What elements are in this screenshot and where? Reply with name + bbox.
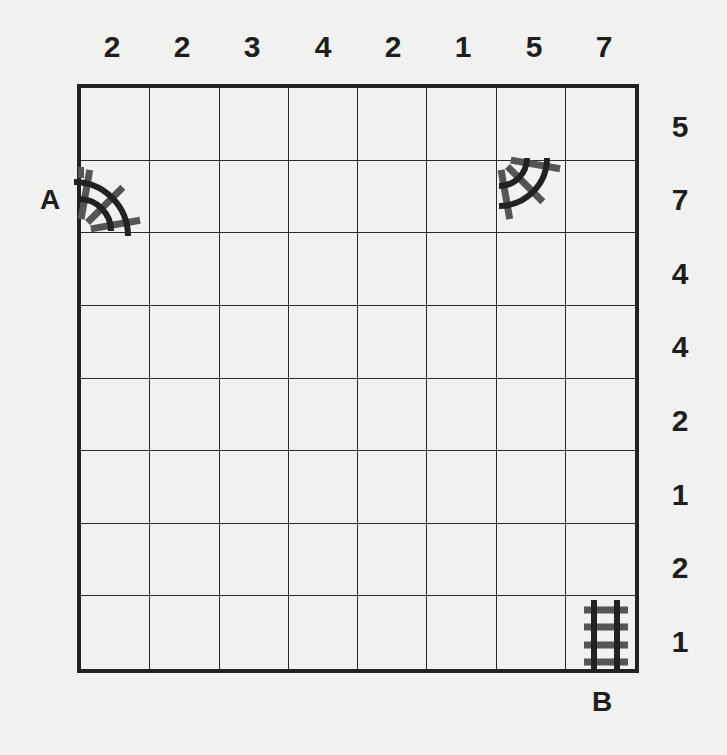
end-label-b: B — [592, 686, 612, 718]
grid-cell-r5c8[interactable] — [566, 379, 635, 452]
grid-cell-r3c1[interactable] — [81, 233, 150, 306]
column-clue-3: 3 — [217, 30, 287, 64]
row-clue-3: 4 — [660, 257, 700, 291]
grid-cell-r1c2[interactable] — [150, 88, 219, 161]
grid-cell-r5c6[interactable] — [427, 379, 496, 452]
row-clue-5: 2 — [660, 404, 700, 438]
grid-cell-r8c7[interactable] — [497, 596, 566, 669]
grid-cell-r1c4[interactable] — [289, 88, 358, 161]
grid-cell-r7c5[interactable] — [358, 524, 427, 597]
start-label-a: A — [40, 184, 60, 216]
grid-cell-r7c1[interactable] — [81, 524, 150, 597]
grid-cell-r8c5[interactable] — [358, 596, 427, 669]
grid-cell-r1c5[interactable] — [358, 88, 427, 161]
grid-cell-r5c5[interactable] — [358, 379, 427, 452]
column-clue-4: 4 — [288, 30, 358, 64]
grid-cell-r5c1[interactable] — [81, 379, 150, 452]
grid-cell-r1c7[interactable] — [497, 88, 566, 161]
grid-cell-r5c4[interactable] — [289, 379, 358, 452]
grid-cell-r8c4[interactable] — [289, 596, 358, 669]
grid-cell-r3c5[interactable] — [358, 233, 427, 306]
grid-cell-r4c7[interactable] — [497, 306, 566, 379]
grid-cell-r7c7[interactable] — [497, 524, 566, 597]
grid-cell-r6c1[interactable] — [81, 451, 150, 524]
grid-cell-r7c4[interactable] — [289, 524, 358, 597]
grid-cell-r6c4[interactable] — [289, 451, 358, 524]
column-clue-1: 2 — [77, 30, 147, 64]
row-clue-6: 1 — [660, 478, 700, 512]
grid-cell-r4c5[interactable] — [358, 306, 427, 379]
grid-cell-r1c8[interactable] — [566, 88, 635, 161]
column-clue-2: 2 — [147, 30, 217, 64]
grid-cell-r6c2[interactable] — [150, 451, 219, 524]
grid-cell-r5c3[interactable] — [220, 379, 289, 452]
grid-cell-r4c1[interactable] — [81, 306, 150, 379]
row-clue-4: 4 — [660, 330, 700, 364]
grid-cell-r5c2[interactable] — [150, 379, 219, 452]
grid-cell-r2c2[interactable] — [150, 161, 219, 234]
grid-cell-r6c3[interactable] — [220, 451, 289, 524]
column-clue-7: 5 — [499, 30, 569, 64]
grid-cell-r2c8[interactable] — [566, 161, 635, 234]
grid-cell-r2c6[interactable] — [427, 161, 496, 234]
grid-cell-r2c5[interactable] — [358, 161, 427, 234]
grid-cell-r2c3[interactable] — [220, 161, 289, 234]
grid-cell-r3c7[interactable] — [497, 233, 566, 306]
grid-cell-r3c6[interactable] — [427, 233, 496, 306]
grid-cell-r6c7[interactable] — [497, 451, 566, 524]
row-clue-1: 5 — [660, 110, 700, 144]
grid-cell-r3c8[interactable] — [566, 233, 635, 306]
grid-cell-r6c8[interactable] — [566, 451, 635, 524]
grid-cell-r4c6[interactable] — [427, 306, 496, 379]
curved-track-icon — [79, 171, 139, 231]
grid-cell-r7c3[interactable] — [220, 524, 289, 597]
grid-cell-r6c5[interactable] — [358, 451, 427, 524]
grid-cell-r4c3[interactable] — [220, 306, 289, 379]
row-clue-2: 7 — [660, 183, 700, 217]
grid-cell-r8c3[interactable] — [220, 596, 289, 669]
grid-cell-r8c6[interactable] — [427, 596, 496, 669]
grid-cell-r3c2[interactable] — [150, 233, 219, 306]
column-clue-6: 1 — [428, 30, 498, 64]
grid-cell-r1c3[interactable] — [220, 88, 289, 161]
grid-cell-r6c6[interactable] — [427, 451, 496, 524]
grid-cell-r4c8[interactable] — [566, 306, 635, 379]
column-clue-5: 2 — [358, 30, 428, 64]
straight-track-icon — [584, 600, 628, 672]
grid-cell-r4c2[interactable] — [150, 306, 219, 379]
grid-cell-r1c6[interactable] — [427, 88, 496, 161]
column-clue-8: 7 — [569, 30, 639, 64]
grid-cell-r8c1[interactable] — [81, 596, 150, 669]
grid-cell-r2c4[interactable] — [289, 161, 358, 234]
grid-cell-r7c8[interactable] — [566, 524, 635, 597]
grid-cell-r3c3[interactable] — [220, 233, 289, 306]
row-clue-8: 1 — [660, 625, 700, 659]
row-clue-7: 2 — [660, 551, 700, 585]
grid-cell-r4c4[interactable] — [289, 306, 358, 379]
grid-cell-r1c1[interactable] — [81, 88, 150, 161]
grid-cell-r8c2[interactable] — [150, 596, 219, 669]
grid-cell-r5c7[interactable] — [497, 379, 566, 452]
grid-cell-r7c6[interactable] — [427, 524, 496, 597]
curved-track-icon — [499, 158, 559, 218]
grid-cell-r7c2[interactable] — [150, 524, 219, 597]
grid-cell-r3c4[interactable] — [289, 233, 358, 306]
